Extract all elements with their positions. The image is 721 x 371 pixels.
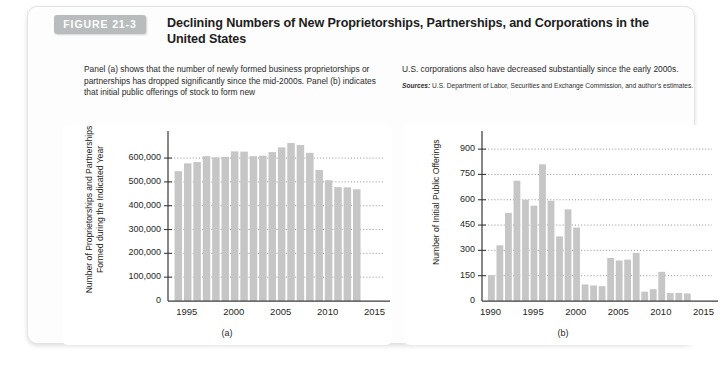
panel-b-ytick-label: 150 [460,270,475,280]
chart-panel-a: Number of Proprietorships and Partnershi… [62,125,392,345]
chart-panel-b: Number of Initial Public Offerings (b) 0… [404,125,721,345]
panel-b-xtick-label: 2005 [598,306,638,317]
sources-body: U.S. Department of Labor, Securities and… [430,82,693,89]
sources-label: Sources: [402,82,430,89]
panel-b-xtick-label: 2015 [683,306,721,317]
panel-a-xtick-label: 2010 [308,306,348,317]
figure-number-badge: FIGURE 21-3 [54,15,146,34]
panel-b-ytick-label: 450 [460,219,475,229]
panel-a-ytick-label: 300,000 [128,224,161,234]
sources-note: Sources: U.S. Department of Labor, Secur… [402,81,721,90]
caption-right-text: U.S. corporations also have decreased su… [402,64,679,74]
panel-b-ytick-label: 750 [460,168,475,178]
panel-a-ytick-label: 600,000 [128,152,161,162]
panel-a-ytick-label: 200,000 [128,247,161,257]
panel-b-ytick-label: 900 [460,143,475,153]
panel-a-xtick-label: 2015 [355,306,395,317]
panel-a-xtick-label: 1995 [167,306,207,317]
panel-a-svg [62,125,392,325]
panel-a-ytick-label: 400,000 [128,200,161,210]
panel-a-xtick-label: 2000 [214,306,254,317]
panel-b-svg [404,125,721,325]
panel-b-xtick-label: 2000 [556,306,596,317]
panel-a-plot-area: Number of Proprietorships and Partnershi… [62,125,392,345]
caption-right-column: U.S. corporations also have decreased su… [402,64,721,90]
panel-b-xtick-label: 2010 [641,306,681,317]
caption-left-column: Panel (a) shows that the number of newly… [84,64,384,99]
panel-a-ytick-label: 100,000 [128,271,161,281]
figure-title: Declining Numbers of New Proprietorships… [167,16,687,47]
panel-b-ytick-label: 0 [470,295,475,305]
panel-b-ytick-label: 600 [460,194,475,204]
panel-b-plot-area: Number of Initial Public Offerings (b) 0… [404,125,721,345]
panel-a-ytick-label: 500,000 [128,176,161,186]
panel-b-letter: (b) [404,328,721,338]
panel-b-xtick-label: 1995 [513,306,553,317]
panel-a-letter: (a) [62,328,392,338]
panel-b-ytick-label: 300 [460,244,475,254]
panel-a-xtick-label: 2005 [261,306,301,317]
panel-a-ytick-label: 0 [156,295,161,305]
figure-card: FIGURE 21-3 Declining Numbers of New Pro… [27,6,695,344]
panel-b-xtick-label: 1990 [471,306,511,317]
